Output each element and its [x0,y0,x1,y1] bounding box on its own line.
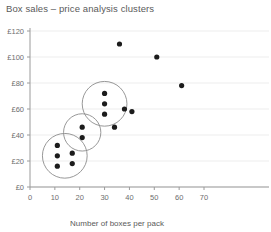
data-point [80,125,85,130]
cluster-rings-group [42,81,127,178]
y-tick-label: £60 [11,105,24,114]
data-point [102,112,107,117]
data-point [179,83,184,88]
data-point [129,109,134,114]
data-point [55,164,60,169]
data-point [102,101,107,106]
x-tick-label: 50 [150,193,158,202]
x-tick-label: 10 [51,193,59,202]
data-point [154,54,159,59]
x-axis: 010203040506070 [28,187,269,202]
gridlines-group [30,31,269,187]
y-tick-label: £20 [11,157,24,166]
x-tick-label: 40 [125,193,133,202]
x-tick-label: 70 [200,193,208,202]
x-tick-label: 20 [76,193,84,202]
data-point [80,135,85,140]
x-tick-label: 0 [28,193,32,202]
y-tick-label: £40 [11,131,24,140]
y-tick-label: £0 [16,183,24,192]
data-point [122,106,127,111]
y-tick-label: £120 [7,27,24,36]
data-point [70,161,75,166]
data-point [55,143,60,148]
y-tick-label: £80 [11,79,24,88]
chart-container: Box sales – price analysis clusters £0£2… [0,0,271,232]
y-axis: £0£20£40£60£80£100£120 [7,27,30,192]
data-point [102,91,107,96]
x-tick-label: 60 [175,193,183,202]
x-axis-title: Number of boxes per pack [70,219,165,228]
data-point [117,41,122,46]
data-point [112,125,117,130]
cluster-ring [64,114,101,151]
scatter-plot: £0£20£40£60£80£100£120 010203040506070 N… [0,0,271,232]
y-tick-label: £100 [7,53,24,62]
x-tick-label: 30 [100,193,108,202]
data-point [70,151,75,156]
data-point [55,153,60,158]
